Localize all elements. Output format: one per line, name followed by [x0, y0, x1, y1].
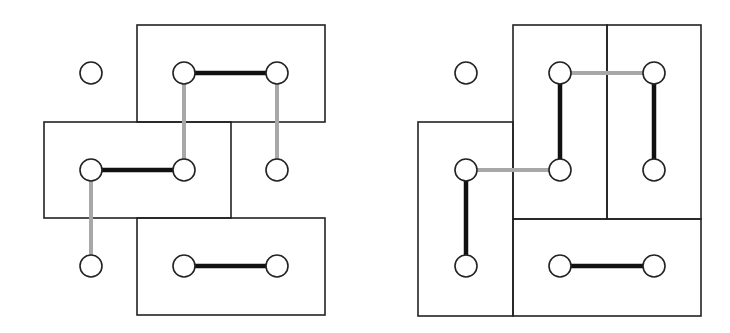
node-a2 — [173, 62, 195, 84]
node-b1 — [455, 159, 477, 181]
node-c1 — [80, 255, 102, 277]
node-c2 — [173, 255, 195, 277]
node-a1 — [455, 62, 477, 84]
tiling-diagram-canvas — [0, 0, 730, 333]
node-c1 — [455, 255, 477, 277]
node-a3 — [266, 62, 288, 84]
node-c3 — [643, 255, 665, 277]
node-c2 — [549, 255, 571, 277]
node-c3 — [266, 255, 288, 277]
node-b1 — [80, 159, 102, 181]
node-a1 — [80, 62, 102, 84]
node-b2 — [173, 159, 195, 181]
node-b3 — [643, 159, 665, 181]
node-a3 — [643, 62, 665, 84]
left-diagram — [44, 25, 325, 315]
node-a2 — [549, 62, 571, 84]
right-diagram — [418, 25, 701, 316]
node-b2 — [549, 159, 571, 181]
node-b3 — [266, 159, 288, 181]
